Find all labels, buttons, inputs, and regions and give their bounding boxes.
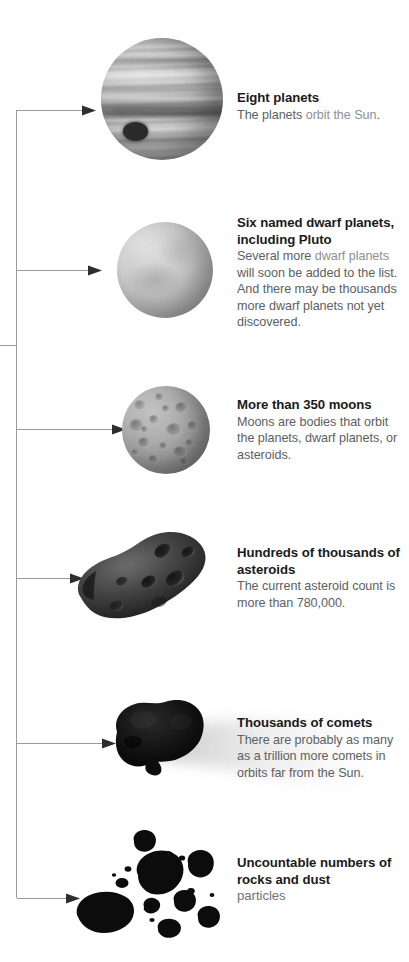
dwarf-planets-heading: Six named dwarf planets, including Pluto (237, 215, 409, 248)
branch-rocks-and-dust: Uncountable numbers of rocks and dust pa… (0, 825, 409, 962)
branch-comets: Thousands of comets There are probably a… (0, 660, 409, 825)
dwarf-planet-image (117, 222, 213, 318)
solar-system-infographic: Eight planets The planets orbit the Sun.… (0, 0, 409, 962)
planet-shading (101, 38, 223, 160)
rocks-heading-suffix: particles (237, 888, 409, 905)
rocks-text-block: Uncountable numbers of rocks and dust pa… (237, 855, 409, 905)
rocks-and-dust-image (62, 825, 237, 945)
dwarf-shading (117, 222, 213, 318)
dwarf-planets-text-block: Six named dwarf planets, including Pluto… (237, 215, 409, 331)
asteroid-image (52, 518, 230, 640)
asteroids-heading: Hundreds of thousands of asteroids (237, 545, 409, 578)
moons-body: Moons are bodies that orbit the planets,… (237, 414, 409, 464)
branch-asteroids: Hundreds of thousands of asteroids The c… (0, 490, 409, 660)
branch-moons: More than 350 moons Moons are bodies tha… (0, 340, 409, 490)
planets-heading: Eight planets (237, 90, 409, 107)
dwarf-planets-body: Several more dwarf planets will soon be … (237, 248, 409, 331)
moon-shading (122, 386, 210, 474)
comets-body: There are probably as many as a trillion… (237, 732, 409, 782)
asteroids-text-block: Hundreds of thousands of asteroids The c… (237, 545, 409, 611)
comets-heading: Thousands of comets (237, 715, 409, 732)
orbit-the-sun-link[interactable]: orbit the Sun (306, 108, 377, 122)
dwarf-planets-link[interactable]: dwarf planets (315, 249, 389, 263)
dwarf-body-part-2: will soon be added to the list. And ther… (237, 266, 397, 330)
moon-image (122, 386, 210, 474)
asteroids-body: The current asteroid count is more than … (237, 578, 409, 611)
comets-text-block: Thousands of comets There are probably a… (237, 715, 409, 781)
branch-planets: Eight planets The planets orbit the Sun. (0, 0, 409, 175)
rock-cluster (77, 830, 220, 938)
branch-dwarf-planets: Six named dwarf planets, including Pluto… (0, 175, 409, 340)
planets-text-block: Eight planets The planets orbit the Sun. (237, 90, 409, 123)
jupiter-planet-image (101, 38, 223, 160)
moons-text-block: More than 350 moons Moons are bodies tha… (237, 397, 409, 463)
planets-body: The planets orbit the Sun. (237, 107, 409, 124)
moons-heading: More than 350 moons (237, 397, 409, 414)
rocks-heading: Uncountable numbers of rocks and dust (237, 855, 409, 888)
comet-nucleus (116, 700, 204, 775)
planets-body-part-0: The planets (237, 108, 306, 122)
planets-body-part-2: . (376, 108, 379, 122)
dwarf-body-part-0: Several more (237, 249, 315, 263)
